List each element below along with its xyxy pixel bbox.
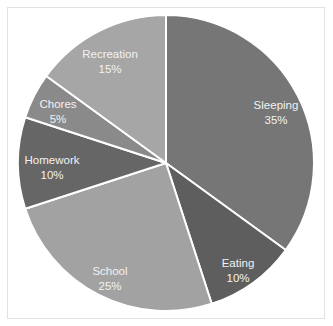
slice-pct-homework: 10% bbox=[40, 169, 63, 181]
slice-label-homework: Homework bbox=[25, 154, 80, 166]
slice-label-recreation: Recreation bbox=[82, 48, 138, 60]
slice-pct-eating: 10% bbox=[226, 272, 249, 284]
slice-label-sleeping: Sleeping bbox=[254, 99, 299, 111]
slice-pct-chores: 5% bbox=[50, 113, 67, 125]
slice-label-eating: Eating bbox=[222, 257, 255, 269]
slice-label-school: School bbox=[92, 265, 127, 277]
slice-pct-sleeping: 35% bbox=[264, 114, 287, 126]
pie-chart: Sleeping 35% Eating 10% School 25% Homew… bbox=[0, 0, 333, 326]
slice-label-chores: Chores bbox=[39, 98, 76, 110]
slice-pct-school: 25% bbox=[98, 280, 121, 292]
slice-pct-recreation: 15% bbox=[98, 63, 121, 75]
